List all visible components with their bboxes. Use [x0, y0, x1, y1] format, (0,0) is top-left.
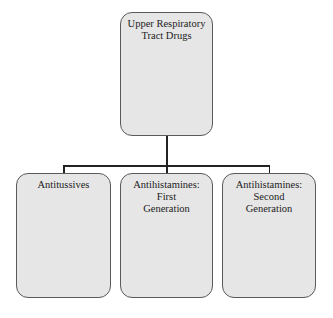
connector-root-vertical: [166, 136, 168, 166]
child-node-antitussives: Antitussives: [16, 173, 111, 298]
child-3-label-line2: Generation: [223, 203, 315, 215]
root-label-line2: Tract Drugs: [123, 30, 210, 42]
child-node-antihistamines-second-gen: Antihistamines: Second Generation: [222, 173, 316, 298]
child-2-label-line2: Generation: [123, 203, 210, 215]
child-1-label-line1: Antitussives: [19, 179, 108, 191]
child-2-label-line1: Antihistamines: First: [123, 179, 210, 203]
root-node: Upper Respiratory Tract Drugs: [120, 12, 213, 136]
child-3-label-line1: Antihistamines: Second: [223, 179, 315, 203]
root-label-line1: Upper Respiratory: [123, 18, 210, 30]
child-node-antihistamines-first-gen: Antihistamines: First Generation: [120, 173, 213, 298]
